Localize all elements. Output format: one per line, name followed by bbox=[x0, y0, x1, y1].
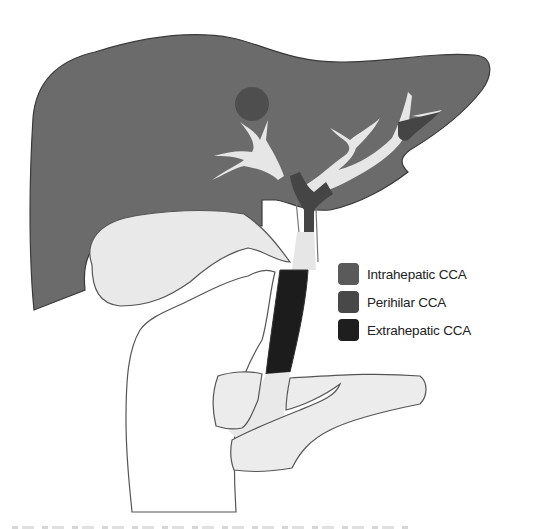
swatch-intrahepatic bbox=[338, 263, 359, 285]
legend-item-extrahepatic: Extrahepatic CCA bbox=[338, 316, 471, 344]
intrahepatic-tumor bbox=[235, 87, 269, 121]
biliary-anatomy-diagram bbox=[0, 0, 560, 529]
pancreas bbox=[213, 372, 426, 471]
legend-label: Intrahepatic CCA bbox=[367, 267, 467, 282]
clipped-caption-line bbox=[12, 522, 412, 529]
legend: Intrahepatic CCA Perihilar CCA Extrahepa… bbox=[338, 260, 471, 344]
swatch-perihilar bbox=[338, 291, 359, 313]
swatch-extrahepatic bbox=[338, 319, 359, 341]
legend-item-perihilar: Perihilar CCA bbox=[338, 288, 471, 316]
legend-label: Perihilar CCA bbox=[367, 295, 446, 310]
legend-item-intrahepatic: Intrahepatic CCA bbox=[338, 260, 471, 288]
legend-label: Extrahepatic CCA bbox=[367, 323, 471, 338]
